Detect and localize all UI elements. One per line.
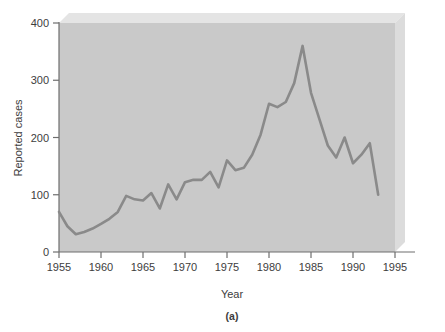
x-tick-label: 1985: [299, 261, 323, 273]
y-tick-label: 200: [31, 132, 49, 144]
y-tick-label: 300: [31, 74, 49, 86]
y-axis-title: Reported cases: [12, 99, 24, 177]
x-tick-label: 1960: [89, 261, 113, 273]
x-tick-label: 1955: [47, 261, 71, 273]
x-tick-label: 1980: [257, 261, 281, 273]
y-tick-label: 100: [31, 189, 49, 201]
y-tick-label: 0: [43, 246, 49, 258]
x-tick-label: 1995: [383, 261, 407, 273]
x-tick-label: 1970: [173, 261, 197, 273]
x-tick-label: 1975: [215, 261, 239, 273]
x-tick-label: 1965: [131, 261, 155, 273]
x-tick-label: 1990: [341, 261, 365, 273]
y-tick-label: 400: [31, 17, 49, 29]
x-axis-ticks: 195519601965197019751980198519901995: [47, 252, 407, 273]
figure-container: 0100200300400 19551960196519701975198019…: [0, 0, 445, 332]
x-axis-title: Year: [221, 288, 244, 300]
chart-canvas: 0100200300400 19551960196519701975198019…: [0, 0, 445, 332]
figure-caption: (a): [226, 310, 239, 322]
